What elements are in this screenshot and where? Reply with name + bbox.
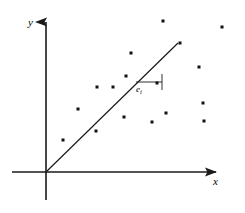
data-point bbox=[130, 52, 133, 55]
plot-canvas bbox=[0, 0, 245, 213]
residual-label-subscript: i bbox=[140, 88, 142, 95]
data-point bbox=[151, 121, 154, 124]
data-point bbox=[203, 120, 206, 123]
data-point bbox=[125, 75, 128, 78]
residual-label: ei bbox=[136, 85, 142, 94]
data-point bbox=[123, 116, 126, 119]
data-point bbox=[95, 130, 98, 133]
data-point bbox=[202, 102, 205, 105]
data-point bbox=[156, 82, 159, 85]
data-point bbox=[165, 112, 168, 115]
data-point bbox=[198, 66, 201, 69]
data-point bbox=[112, 86, 115, 89]
data-point bbox=[96, 86, 99, 89]
data-point bbox=[221, 26, 224, 29]
data-point bbox=[162, 20, 165, 23]
scatter-plot-figure: y x ei bbox=[0, 0, 245, 213]
x-axis-label: x bbox=[213, 176, 218, 187]
data-point bbox=[179, 42, 182, 45]
data-point bbox=[77, 108, 80, 111]
regression-line bbox=[46, 43, 178, 172]
y-axis-label: y bbox=[28, 17, 33, 28]
data-point bbox=[62, 139, 65, 142]
scatter-points bbox=[62, 20, 224, 142]
